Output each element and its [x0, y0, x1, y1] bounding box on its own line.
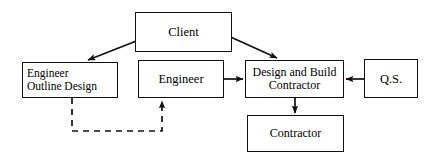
- node-client-label: Client: [168, 25, 199, 39]
- node-engineer-label: Engineer: [158, 72, 203, 86]
- node-contractor-label: Contractor: [270, 127, 321, 140]
- node-engineer-outline-design-label: Engineer Outline Design: [27, 67, 97, 93]
- diagram-canvas: Client Engineer Outline Design Engineer …: [0, 0, 433, 156]
- node-engineer-outline-design[interactable]: Engineer Outline Design: [22, 62, 118, 98]
- node-design-build-contractor-label: Design and Build Contractor: [253, 66, 337, 93]
- node-client[interactable]: Client: [135, 12, 232, 52]
- connector-engineer-outline-design-to-engineer: [72, 98, 162, 131]
- node-qs[interactable]: Q.S.: [364, 59, 418, 98]
- node-contractor[interactable]: Contractor: [247, 115, 344, 152]
- node-engineer[interactable]: Engineer: [138, 60, 224, 98]
- node-qs-label: Q.S.: [380, 72, 402, 86]
- node-design-build-contractor[interactable]: Design and Build Contractor: [245, 60, 344, 98]
